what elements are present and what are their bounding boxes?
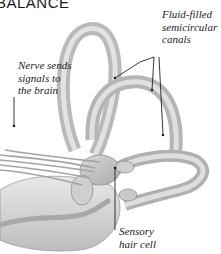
label-line: the brain xyxy=(18,84,71,97)
label-line: Fluid-filled xyxy=(162,8,217,21)
label-line: canals xyxy=(162,33,217,46)
label-sensory-hair-cell: Sensory hair cell xyxy=(119,225,156,250)
label-line: signals to xyxy=(18,72,71,85)
label-semicircular-canals: Fluid-filled semicircular canals xyxy=(162,8,217,46)
label-line: semicircular xyxy=(162,21,217,34)
label-line: hair cell xyxy=(119,238,156,251)
label-nerve: Nerve sends signals to the brain xyxy=(18,59,71,97)
label-line: Sensory xyxy=(119,225,156,238)
label-line: Nerve sends xyxy=(18,59,71,72)
page-title: BALANCE xyxy=(0,0,70,11)
ampulla xyxy=(116,161,134,173)
cochlea-base xyxy=(0,176,120,251)
